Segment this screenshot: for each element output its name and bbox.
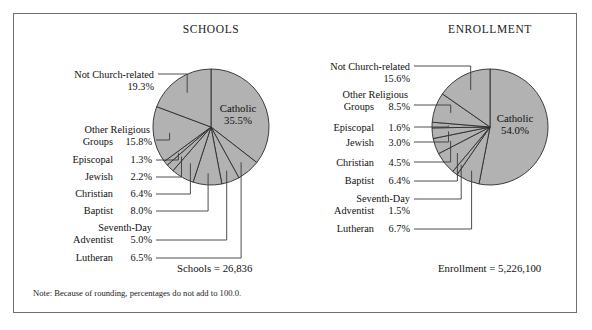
total-schools: Schools = 26,836: [177, 262, 253, 274]
pct-baptist-enrollment: 6.4%: [389, 175, 411, 186]
pct-not-church-related-enrollment: 15.6%: [383, 73, 410, 84]
pct-seventh-day-enrollment: 1.5%: [389, 205, 411, 216]
pct-jewish-enrollment: 3.0%: [389, 137, 411, 148]
label-other-religious-schools: Other Religious: [85, 124, 151, 135]
pie-charts-figure: SCHOOLS Catholic 35.5% Not Church-relate…: [0, 0, 592, 330]
label-episcopal-enrollment: Episcopal: [333, 122, 374, 133]
label-episcopal-schools: Episcopal: [72, 154, 113, 165]
chart-title-schools: SCHOOLS: [183, 23, 240, 35]
pie-slices-enrollment: [432, 69, 548, 185]
pie-slices-schools: [153, 69, 269, 185]
pct-episcopal-schools: 1.3%: [131, 154, 153, 165]
chart-schools: SCHOOLS Catholic 35.5% Not Church-relate…: [72, 23, 269, 274]
pct-baptist-schools: 8.0%: [131, 205, 153, 216]
label-baptist-enrollment: Baptist: [345, 175, 374, 186]
pct-other-religious-enrollment: 8.5%: [389, 101, 411, 112]
label-seventh-day-schools: Seventh-Day: [98, 222, 153, 233]
total-enrollment: Enrollment = 5,226,100: [438, 262, 541, 274]
label-adventist-enrollment: Adventist: [334, 205, 374, 216]
label-jewish-enrollment: Jewish: [346, 137, 375, 148]
center-label-enrollment: Catholic: [497, 112, 534, 124]
label-lutheran-enrollment: Lutheran: [337, 223, 374, 234]
label-christian-schools: Christian: [75, 188, 113, 199]
center-label-schools: Catholic: [220, 102, 257, 114]
pct-christian-enrollment: 4.5%: [389, 157, 411, 168]
label-lutheran-schools: Lutheran: [76, 252, 113, 263]
chart-title-enrollment: ENROLLMENT: [448, 23, 532, 35]
leader-line: [414, 171, 472, 229]
pct-christian-schools: 6.4%: [131, 188, 153, 199]
label-adventist-schools: Adventist: [73, 234, 113, 245]
pct-not-church-related-schools: 19.3%: [127, 81, 154, 92]
label-not-church-related-enrollment: Not Church-related: [330, 61, 411, 72]
figure-page: SCHOOLS Catholic 35.5% Not Church-relate…: [0, 0, 592, 330]
label-jewish-schools: Jewish: [85, 171, 114, 182]
label-other-religious-schools-line2: Groups: [83, 136, 113, 147]
pct-jewish-schools: 2.2%: [131, 171, 153, 182]
label-not-church-related-schools: Not Church-related: [74, 69, 155, 80]
rounding-note: Note: Because of rounding, percentages d…: [33, 288, 241, 298]
center-value-schools: 35.5%: [224, 114, 252, 126]
pct-lutheran-schools: 6.5%: [131, 252, 153, 263]
label-other-religious-enrollment: Other Religious: [343, 89, 409, 100]
chart-enrollment: ENROLLMENT Catholic 54.0% Not Church-rel…: [330, 23, 548, 274]
label-other-religious-enrollment-line2: Groups: [344, 101, 374, 112]
pct-seventh-day-schools: 5.0%: [131, 234, 153, 245]
pct-other-religious-schools: 15.8%: [125, 136, 152, 147]
label-baptist-schools: Baptist: [84, 205, 113, 216]
label-christian-enrollment: Christian: [336, 157, 374, 168]
label-seventh-day-enrollment: Seventh-Day: [356, 193, 411, 204]
pct-lutheran-enrollment: 6.7%: [389, 223, 411, 234]
center-value-enrollment: 54.0%: [501, 124, 529, 136]
pct-episcopal-enrollment: 1.6%: [389, 122, 411, 133]
